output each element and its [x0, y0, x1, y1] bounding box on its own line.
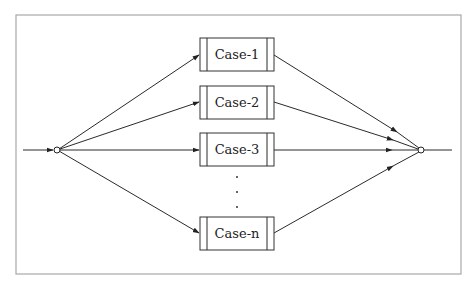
- case-box-1: Case-1: [200, 38, 274, 71]
- edge-merge-case-2-arrow: [274, 102, 393, 140]
- edge-merge-case-1-arrow: [274, 55, 397, 132]
- case-label-n: Case-n: [215, 226, 260, 241]
- split-node: [54, 147, 60, 153]
- merge-node: [418, 147, 424, 153]
- case-label-2: Case-2: [215, 95, 260, 110]
- edge-merge-case-n-arrow: [274, 166, 393, 233]
- case-box-2: Case-2: [200, 86, 274, 119]
- case-label-1: Case-1: [215, 47, 260, 62]
- case-box-n: Case-n: [200, 217, 274, 250]
- vertical-ellipsis: [236, 176, 238, 208]
- edge-split-case-1: [59, 55, 199, 149]
- diagram-canvas: Case-1 Case-2 Case-3 Case-n: [0, 0, 473, 288]
- edge-split-case-n: [59, 151, 199, 233]
- case-box-3: Case-3: [200, 133, 274, 166]
- case-label-3: Case-3: [215, 142, 260, 157]
- edge-merge-case-n: [393, 152, 419, 166]
- edge-split-case-2: [60, 102, 199, 149]
